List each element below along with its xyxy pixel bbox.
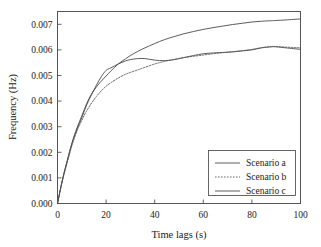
legend-label-scenario-a: Scenario a bbox=[246, 158, 287, 168]
y-tick-label: 0.001 bbox=[31, 173, 53, 183]
x-tick-label: 20 bbox=[101, 210, 111, 220]
y-tick-label: 0.002 bbox=[31, 148, 53, 158]
legend-label-scenario-c: Scenario c bbox=[246, 186, 286, 196]
x-tick-label: 0 bbox=[55, 210, 60, 220]
y-axis-title: Frequency (Hz) bbox=[7, 73, 19, 140]
y-axis-tick-labels: 0.0000.0010.0020.0030.0040.0050.0060.007 bbox=[31, 20, 53, 209]
y-tick-label: 0.005 bbox=[31, 71, 53, 81]
x-tick-label: 80 bbox=[247, 210, 257, 220]
frequency-vs-timelag-line-chart: 0.0000.0010.0020.0030.0040.0050.0060.007… bbox=[0, 0, 321, 247]
y-tick-label: 0.004 bbox=[31, 96, 53, 106]
x-tick-label: 100 bbox=[293, 210, 308, 220]
legend-label-scenario-b: Scenario b bbox=[246, 172, 287, 182]
x-axis-ticks bbox=[58, 200, 301, 204]
y-axis-ticks bbox=[58, 24, 62, 203]
x-axis-tick-labels: 020406080100 bbox=[55, 210, 308, 220]
y-tick-label: 0.000 bbox=[31, 199, 53, 209]
x-tick-label: 40 bbox=[150, 210, 160, 220]
chart-figure: 0.0000.0010.0020.0030.0040.0050.0060.007… bbox=[0, 0, 321, 247]
y-tick-label: 0.007 bbox=[31, 20, 53, 30]
y-tick-label: 0.006 bbox=[31, 45, 53, 55]
chart-legend: Scenario aScenario bScenario c bbox=[209, 151, 296, 197]
x-axis-title: Time lags (s) bbox=[151, 229, 207, 241]
y-tick-label: 0.003 bbox=[31, 122, 53, 132]
x-tick-label: 60 bbox=[199, 210, 209, 220]
